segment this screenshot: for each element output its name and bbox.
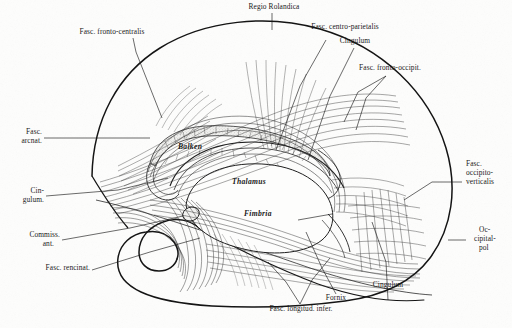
label-fasc-fronto-centralis: Fasc. fronto-centralis [52,28,172,37]
brain-dissection-drawing [0,0,512,328]
label-regio-rolandica: Regio Rolandica [238,3,310,12]
label-balken: Balken [178,143,202,152]
label-cingulum-bottom: Cingulum [355,281,421,290]
label-commiss-ant-line2: ant. [10,240,54,249]
label-fasc-arcuatus-line2: arcnat. [4,137,42,146]
label-occipital-pol-line3: pol [479,244,512,253]
anatomical-plate: Fasc. fronto-centralis Regio Rolandica F… [0,0,512,328]
label-cingulum-left-line2: gulum. [4,196,44,205]
label-cingulum-top: Cingulum [322,37,388,46]
label-thalamus: Thalamus [232,178,266,187]
label-fasc-longitudinalis-inferior: Fasc. longitud. infer. [248,305,354,314]
label-fasc-fronto-occipitalis: Fasc. fronto-occipit. [338,64,442,73]
label-fornix: Fornix [310,294,362,303]
label-fasc-occipito-verticalis-line3: verticalis [466,178,512,187]
label-fasc-centro-parietalis: Fasc. centro-parietalis [292,23,398,32]
label-fimbria: Fimbria [244,210,272,219]
label-fasc-uncinatus: Fasc. rencinat. [4,264,90,273]
